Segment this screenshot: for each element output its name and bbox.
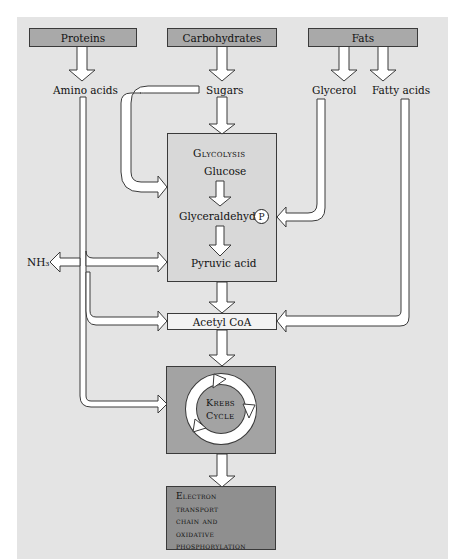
proteins-box: Proteins <box>29 28 137 47</box>
arrow-amino-pyruvic <box>86 251 167 272</box>
fatty-acids-label: Fatty acids <box>372 84 430 96</box>
proteins-label: Proteins <box>61 32 105 44</box>
etc-line2: transport <box>176 503 246 516</box>
etc-line1: Electron <box>176 490 246 503</box>
arrow-amino-acetyl <box>86 272 167 331</box>
etc-line3: chain and <box>176 515 246 528</box>
amino-acids-label: Amino acids <box>53 84 118 96</box>
arrow-glyceraldehyde-pyruvic <box>209 226 231 256</box>
etc-line4: oxidative <box>176 528 246 541</box>
glyceraldehyde-label: Glyceraldehyde <box>179 210 262 222</box>
krebs-label-line2: Cycle <box>206 410 234 421</box>
etc-line5: phosphorylation <box>176 540 246 553</box>
etc-label: Electron transport chain and oxidative p… <box>176 490 246 553</box>
acetyl-coa-label: Acetyl CoA <box>193 316 251 328</box>
arrow-acetyl-krebs <box>209 330 235 366</box>
arrow-sugars-bypass <box>121 86 199 198</box>
arrow-fats-glycerol <box>331 46 357 81</box>
arrow-glycolysis-acetyl <box>209 282 235 313</box>
glycerol-label: Glycerol <box>312 84 356 96</box>
arrow-krebs-etc <box>209 454 235 487</box>
sugars-label: Sugars <box>206 84 243 96</box>
fats-label: Fats <box>352 32 374 44</box>
carbohydrates-label: Carbohydrates <box>183 32 262 44</box>
arrow-nh3 <box>50 252 80 272</box>
nh3-label: NH₃ <box>27 256 50 268</box>
pyruvic-acid-label: Pyruvic acid <box>191 257 257 269</box>
krebs-label-line1: Krebs <box>206 397 235 408</box>
fats-box: Fats <box>308 28 418 47</box>
arrow-sugars-glycolysis <box>209 97 235 134</box>
acetyl-coa-box: Acetyl CoA <box>167 313 277 330</box>
arrow-glycerol-glyceraldehyde <box>277 99 325 227</box>
glycolysis-title: Glycolysis <box>193 147 245 159</box>
phosphate-icon: P <box>254 209 269 224</box>
glucose-label: Glucose <box>204 165 246 177</box>
arrow-fats-fattyacids <box>370 46 396 81</box>
arrow-proteins-amino <box>69 46 95 81</box>
phosphate-symbol: P <box>258 212 264 222</box>
arrow-carbs-sugars <box>209 46 235 81</box>
arrow-glucose-glyceraldehyde <box>209 181 231 206</box>
carbohydrates-box: Carbohydrates <box>167 28 277 47</box>
